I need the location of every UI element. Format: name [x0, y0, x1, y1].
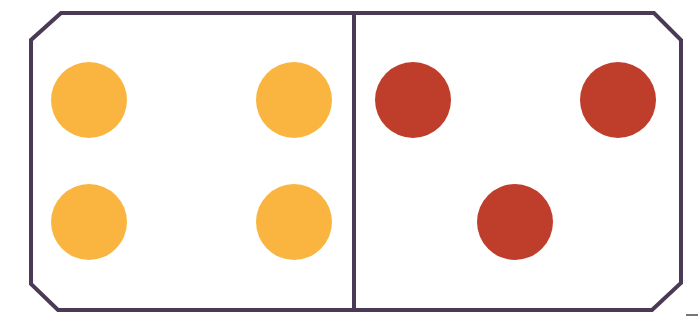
yellow-dot [51, 184, 127, 260]
red-dot [477, 184, 553, 260]
red-dot [375, 62, 451, 138]
yellow-dot [256, 62, 332, 138]
yellow-dot [51, 62, 127, 138]
red-dot [580, 62, 656, 138]
domino-diagram [0, 0, 698, 327]
yellow-dot [256, 184, 332, 260]
